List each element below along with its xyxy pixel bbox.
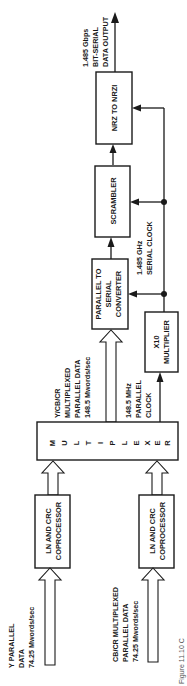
c-input-label-line1: CB/CR MULTIPLEXED <box>111 587 120 662</box>
serial-clock-rate: 1.485 GHz <box>135 240 144 275</box>
c-lncrc-coprocessor-block: LN AND CRC COPROCESSOR <box>139 495 174 568</box>
mux-data-label: Y/CB/CR MULTIPLEXED PARALLEL DATA 148.5 … <box>53 357 92 418</box>
c-input-arrow <box>142 568 164 662</box>
nrz-to-nrzi-block: NRZ TO NRZI <box>96 72 132 144</box>
p2s-to-scrambler-arrow <box>108 237 115 259</box>
nrz-to-nrzi-label: NRZ TO NRZI <box>110 85 119 132</box>
parallel-clock-label: 148.5 MHz PARALLEL CLOCK <box>124 380 153 418</box>
c-input-label: CB/CR MULTIPLEXED PARALLEL DATA 74.25 Mw… <box>111 587 140 662</box>
clock-junction-dot <box>161 199 167 205</box>
y-lncrc-label-line1: LN AND CRC <box>44 507 53 553</box>
c-lncrc-to-mux-arrow <box>146 461 168 495</box>
mux-data-label-line4: 148.5 Mwords/sec <box>83 357 92 418</box>
mux-letter: L <box>72 440 81 445</box>
output-arrow <box>111 12 119 72</box>
output-label: 1.485 Gbps BIT-SERIAL DATA OUTPUT <box>81 16 110 67</box>
c-lncrc-label-line1: LN AND CRC <box>148 507 157 553</box>
mux-letter: L <box>120 440 129 445</box>
y-lncrc-label-line2: COPROCESSOR <box>54 501 63 560</box>
parallel-clock-arrow <box>157 372 164 422</box>
y-input-label-line3: 74.25 Mwords/sec <box>27 607 36 668</box>
p2s-label-line1: PARALLEL TO <box>94 268 103 319</box>
output-rate-label: 1.485 Gbps <box>81 29 90 67</box>
scrambler-label: SCRAMBLER <box>109 177 118 225</box>
y-input-arrow <box>39 568 61 665</box>
mux-letter: I <box>96 442 105 444</box>
mux-letter: E <box>153 440 162 445</box>
mux-data-label-line3: PARALLEL DATA <box>73 359 82 418</box>
scrambler-block: SCRAMBLER <box>95 166 130 237</box>
multiplier-label-line2: MULTIPLIER <box>162 319 171 363</box>
c-input-label-line3: 74.25 Mwords/sec <box>131 601 140 662</box>
parallel-to-serial-block: PARALLEL TO SERIAL CONVERTER <box>92 259 128 329</box>
multiplexer-block: M U L T I P L E X E R <box>37 422 178 460</box>
serial-clock-name: SERIAL CLOCK <box>145 220 154 275</box>
serial-clock-bus <box>128 105 167 313</box>
y-input-label-line2: DATA <box>17 649 26 668</box>
figure-caption: Figure 11.10 C <box>178 638 186 684</box>
mux-letter: P <box>108 440 117 445</box>
p2s-label-line2: SERIAL <box>104 280 113 308</box>
y-lncrc-coprocessor-block: LN AND CRC COPROCESSOR <box>35 495 70 568</box>
figure-caption-text: Figure 11.10 C <box>178 638 186 684</box>
mux-data-bus-arrow <box>100 330 122 422</box>
clock-junction-dot <box>161 291 167 297</box>
c-input-label-line2: PARALLEL DATA <box>121 603 130 662</box>
c-lncrc-label-line2: COPROCESSOR <box>158 501 167 560</box>
serial-clock-label: 1.485 GHz SERIAL CLOCK <box>135 220 154 275</box>
mux-data-label-line1: Y/CB/CR <box>53 388 62 418</box>
parallel-clock-rate: 148.5 MHz <box>124 383 133 418</box>
x10-multiplier-block: X10 MULTIPLIER <box>145 312 178 372</box>
output-type-label: BIT-SERIAL <box>91 26 100 67</box>
parallel-clock-name: CLOCK <box>144 392 153 418</box>
parallel-clock-type: PARALLEL <box>134 380 143 418</box>
serial-transmitter-block-diagram: 1.485 Gbps BIT-SERIAL DATA OUTPUT NRZ TO… <box>0 0 187 686</box>
multiplier-label-line1: X10 <box>152 335 161 348</box>
p2s-label-line3: CONVERTER <box>114 270 123 317</box>
mux-letter: X <box>143 440 152 445</box>
y-lncrc-to-mux-arrow <box>42 461 64 495</box>
output-desc-label: DATA OUTPUT <box>101 16 110 67</box>
mux-letter: R <box>163 440 172 446</box>
scrambler-to-nrz-arrow <box>110 144 117 165</box>
y-input-label: Y PARALLEL DATA 74.25 Mwords/sec <box>7 607 36 668</box>
mux-data-label-line2: MULTIPLEXED <box>63 368 72 418</box>
y-input-label-line1: Y PARALLEL <box>7 623 16 668</box>
mux-letter: E <box>132 440 141 445</box>
mux-letter: U <box>60 440 69 445</box>
mux-letter: T <box>84 440 93 445</box>
mux-letter: M <box>48 440 57 446</box>
